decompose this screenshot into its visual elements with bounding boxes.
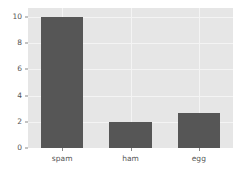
y-tick-label-2: 4 xyxy=(2,92,22,100)
bar-egg xyxy=(178,113,220,148)
bar-chart-figure: 0246810 spamhamegg xyxy=(0,0,246,173)
x-tick-mark-2 xyxy=(199,148,200,151)
x-tick-label-ham: ham xyxy=(122,155,139,163)
x-tick-label-egg: egg xyxy=(192,155,206,163)
y-tick-label-1: 2 xyxy=(2,118,22,126)
y-tick-label-3: 6 xyxy=(2,66,22,74)
bar-ham xyxy=(109,122,151,148)
x-tick-label-spam: spam xyxy=(52,155,73,163)
y-tick-label-0: 0 xyxy=(2,144,22,152)
x-tick-mark-1 xyxy=(131,148,132,151)
x-tick-mark-0 xyxy=(62,148,63,151)
y-tick-label-4: 8 xyxy=(2,40,22,48)
y-tick-label-5: 10 xyxy=(2,13,22,21)
bar-spam xyxy=(41,17,83,148)
plot-area xyxy=(28,8,233,148)
